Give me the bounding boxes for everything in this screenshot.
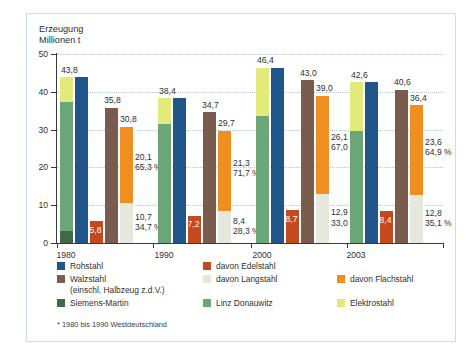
legend-swatch-icon: [337, 299, 345, 307]
bar-walzstahl-2000[interactable]: [301, 80, 314, 243]
label-walzstahl-1990: 34,7: [202, 100, 219, 110]
bar-segment: [395, 90, 408, 243]
bar-walzstahl-split-1990[interactable]: [218, 131, 231, 243]
y-tick-label: 20: [26, 162, 48, 172]
y-tick-label: 50: [26, 49, 48, 59]
label-rohstahl-2000: 46,4: [257, 55, 274, 65]
bar-walzstahl-1980[interactable]: [105, 108, 118, 243]
bar-segment: [105, 108, 118, 243]
label-walzstahl-2000: 43,0: [300, 68, 317, 78]
label-rohstahl-1990: 38,4: [159, 86, 176, 96]
y-tick-label: 0: [26, 238, 48, 248]
bar-segment: [120, 203, 133, 243]
y-tick-label: 10: [26, 200, 48, 210]
legend-swatch-icon: [203, 275, 211, 283]
legend-item-rohstahl[interactable]: Rohstahl: [57, 261, 103, 272]
label-edelstahl-1980: 5,8: [89, 225, 102, 235]
label-rohstahl-1980: 43,8: [61, 65, 78, 75]
legend-label: Linz Donauwitz: [216, 298, 273, 309]
legend-item-davon-flachstahl[interactable]: davon Flachstahl: [337, 274, 413, 285]
bar-segment: [410, 195, 423, 243]
bar-rohstahl-1990[interactable]: [173, 98, 186, 243]
bar-segment: [316, 194, 329, 243]
legend-label: Elektrostahl: [350, 298, 394, 309]
chart-footnote: * 1980 bis 1990 Westdeutschland: [57, 320, 167, 329]
legend-item-davon-langstahl[interactable]: davon Langstahl: [203, 274, 277, 285]
bar-segment: [365, 82, 378, 243]
bar-walzstahl-split-2000[interactable]: [316, 96, 329, 243]
legend-item-davon-edelstahl[interactable]: davon Edelstahl: [203, 261, 276, 272]
x-axis-line: [56, 243, 443, 244]
label-flachstahl-total-2000: 39,0: [316, 83, 333, 93]
legend-swatch-icon: [57, 299, 65, 307]
bar-segment: [120, 127, 133, 203]
bar-segment: [173, 98, 186, 243]
bar-walzstahl-split-1980[interactable]: [120, 127, 133, 243]
bar-segment: [350, 82, 363, 131]
legend-label: Rohstahl: [70, 261, 103, 272]
x-tick-label-2003: 2003: [326, 250, 386, 260]
plot-area: 43,85,835,830,820,1 65,3 %10,7 34,7 %38,…: [57, 54, 443, 243]
legend-swatch-icon: [203, 299, 211, 307]
bar-segment: [256, 68, 269, 116]
label-flachstahl-total-1990: 29,7: [218, 118, 235, 128]
legend-swatch-icon: [57, 262, 65, 270]
bar-segment: [158, 98, 171, 124]
bar-segment: [271, 68, 284, 243]
bar-segment: [218, 211, 231, 243]
legend-label: davon Langstahl: [216, 274, 277, 285]
x-tick-mark: [153, 243, 154, 248]
bar-segment: [410, 105, 423, 194]
x-tick-mark: [347, 243, 348, 248]
bar-walzstahl-1990[interactable]: [203, 112, 216, 243]
legend-item-siemens-martin[interactable]: Siemens-Martin: [57, 298, 129, 309]
y-tick-label: 30: [26, 125, 48, 135]
x-tick-label-1980: 1980: [36, 250, 96, 260]
label-langstahl-share-2003: 12,8 35,1 %: [425, 208, 452, 229]
legend-swatch-icon: [57, 275, 65, 283]
legend-item-elektrostahl[interactable]: Elektrostahl: [337, 298, 394, 309]
x-tick-label-1990: 1990: [134, 250, 194, 260]
legend-swatch-icon: [203, 262, 211, 270]
bar-walzstahl-2003[interactable]: [395, 90, 408, 243]
bar-production-route-2003[interactable]: [350, 82, 363, 243]
bar-segment: [158, 124, 171, 243]
bar-production-route-1990[interactable]: [158, 98, 171, 243]
bar-segment: [316, 96, 329, 195]
legend-swatch-icon: [337, 275, 345, 283]
x-tick-mark: [251, 243, 252, 248]
bar-segment: [203, 112, 216, 243]
label-edelstahl-2003: 8,4: [379, 215, 392, 225]
legend-label: Siemens-Martin: [70, 298, 129, 309]
bar-segment: [350, 131, 363, 243]
label-flachstahl-total-2003: 36,4: [410, 93, 427, 103]
legend-label: davon Edelstahl: [216, 261, 276, 272]
legend-label: davon Flachstahl: [350, 274, 413, 285]
y-tick-label: 40: [26, 87, 48, 97]
label-edelstahl-2000: 8,7: [285, 214, 298, 224]
bar-rohstahl-2000[interactable]: [271, 68, 284, 243]
bar-segment: [60, 231, 73, 243]
bar-rohstahl-1980[interactable]: [75, 77, 88, 243]
legend-item-linz-donauwitz[interactable]: Linz Donauwitz: [203, 298, 273, 309]
bar-segment: [256, 116, 269, 243]
x-tick-label-2000: 2000: [232, 250, 292, 260]
bar-segment: [60, 102, 73, 231]
y-axis-title: Erzeugung Millionen t: [39, 24, 83, 46]
bar-production-route-2000[interactable]: [256, 68, 269, 243]
x-tick-mark: [443, 243, 444, 248]
bar-segment: [60, 77, 73, 101]
chart-figure: Erzeugung Millionen t 01020304050 198019…: [0, 0, 473, 356]
bar-segment: [75, 77, 88, 243]
bar-walzstahl-split-2003[interactable]: [410, 105, 423, 243]
label-rohstahl-2003: 42,6: [351, 70, 368, 80]
bar-rohstahl-2003[interactable]: [365, 82, 378, 243]
legend-item-walzstahl[interactable]: Walzstahl (einschl. Halbzeug z.d.V.): [57, 274, 165, 295]
bar-segment: [218, 131, 231, 212]
bar-production-route-1980[interactable]: [60, 77, 73, 243]
legend-label: Walzstahl (einschl. Halbzeug z.d.V.): [70, 274, 165, 295]
label-walzstahl-2003: 40,6: [394, 77, 411, 87]
bar-segment: [301, 80, 314, 243]
label-edelstahl-1990: 7,2: [187, 219, 200, 229]
x-tick-mark: [57, 243, 58, 248]
